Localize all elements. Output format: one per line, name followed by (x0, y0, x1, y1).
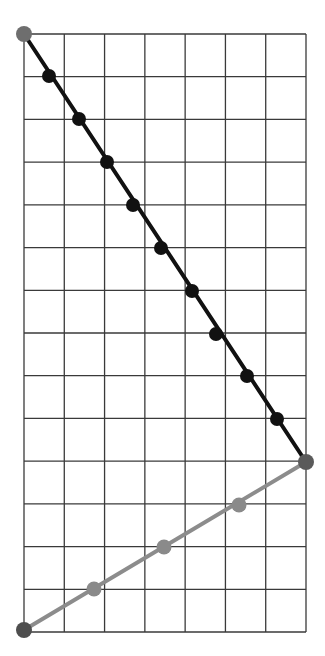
black-segment-point (42, 69, 56, 83)
black-segment-point (270, 412, 284, 426)
black-segment-point (126, 198, 140, 212)
gray-segment-point (87, 582, 102, 597)
black-segment-point (154, 241, 168, 255)
black-segment-point (72, 112, 86, 126)
grid-diagram (0, 0, 325, 656)
right-vertex-endpoint (298, 454, 314, 470)
black-segment-point (100, 155, 114, 169)
top-left-endpoint (16, 26, 32, 42)
gray-segment-point (232, 498, 247, 513)
black-segment-point (240, 369, 254, 383)
black-segment-point (209, 327, 223, 341)
black-segment-point (185, 284, 199, 298)
gray-segment-point (157, 540, 172, 555)
bottom-left-endpoint (16, 622, 32, 638)
diagram-canvas (0, 0, 325, 656)
